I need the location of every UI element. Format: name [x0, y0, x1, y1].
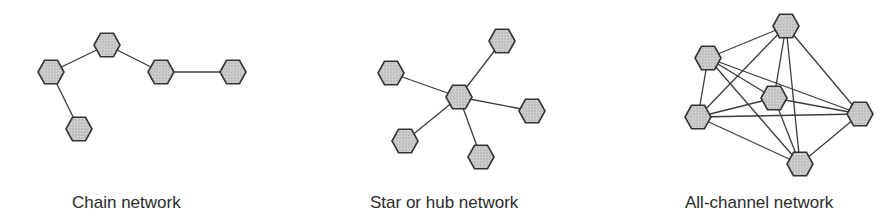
star-network-caption: Star or hub network [370, 193, 518, 213]
hexagon-node-icon [761, 86, 787, 109]
hexagon-node-icon [489, 29, 515, 52]
star-network-nodes [378, 29, 545, 168]
edge-line [774, 98, 860, 114]
all-channel-network-caption: All-channel network [685, 193, 833, 213]
chain-network-caption: Chain network [72, 193, 181, 213]
all-channel-network-graph [685, 14, 873, 175]
hexagon-node-icon [66, 117, 92, 140]
hexagon-node-icon [847, 102, 873, 125]
hexagon-node-icon [787, 152, 813, 175]
chain-network-edges [51, 45, 233, 129]
hexagon-node-icon [220, 60, 246, 83]
edge-line [708, 26, 786, 58]
hexagon-node-icon [446, 85, 472, 108]
star-network-graph [378, 29, 545, 168]
hexagon-node-icon [392, 129, 418, 152]
hexagon-node-icon [695, 46, 721, 69]
hexagon-node-icon [378, 61, 404, 84]
hexagon-node-icon [94, 33, 120, 56]
chain-network-nodes [38, 33, 246, 140]
edge-line [786, 26, 800, 164]
network-diagram-canvas [0, 0, 896, 224]
edge-line [698, 114, 860, 117]
hexagon-node-icon [685, 105, 711, 128]
chain-network-graph [38, 33, 246, 140]
hexagon-node-icon [519, 99, 545, 122]
hexagon-node-icon [468, 145, 494, 168]
hexagon-node-icon [38, 60, 64, 83]
hexagon-node-icon [773, 14, 799, 37]
hexagon-node-icon [148, 60, 174, 83]
